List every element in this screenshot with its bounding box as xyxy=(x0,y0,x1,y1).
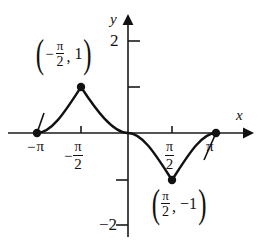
comma: , xyxy=(171,193,178,215)
point-maximum xyxy=(77,83,85,91)
fraction-numerator: π xyxy=(56,39,65,54)
math-figure: y x 2 −2 −π − π 2 π 2 π ( − π 2 , 1 xyxy=(0,0,260,241)
x-tick-label-minus-pi-over-2: − π 2 xyxy=(64,140,83,173)
second-coordinate: −1 xyxy=(179,196,197,212)
y-tick-label-minus-2: −2 xyxy=(99,216,117,233)
x-axis-arrowhead xyxy=(243,128,254,139)
open-paren: ( xyxy=(152,188,160,221)
min-point-label: ( π 2 , −1 ) xyxy=(148,188,210,221)
coordinate-pair: π 2 , −1 xyxy=(161,189,197,220)
max-point-label: ( − π 2 , 1 ) xyxy=(32,38,96,71)
fraction: π 2 xyxy=(165,140,174,173)
minus-sign: − xyxy=(64,149,73,164)
leader-line-minus-pi xyxy=(37,113,44,133)
fraction-denominator: 2 xyxy=(161,204,170,219)
y-tick-label-2: 2 xyxy=(110,32,119,49)
x-tick-label-minus-pi: −π xyxy=(27,138,44,155)
x-tick-label-pi-over-2: π 2 xyxy=(165,140,174,173)
point-minimum xyxy=(168,176,176,184)
fraction-numerator: π xyxy=(73,140,82,156)
x-axis-label: x xyxy=(236,108,243,123)
open-paren: ( xyxy=(36,38,44,71)
fraction-numerator: π xyxy=(165,140,174,156)
fraction-denominator: 2 xyxy=(73,156,82,172)
close-paren: ) xyxy=(84,38,92,71)
comma: , xyxy=(65,43,72,65)
fraction: π 2 xyxy=(56,39,65,70)
minus-sign: − xyxy=(45,47,54,62)
fraction-numerator: π xyxy=(161,189,170,204)
fraction-denominator: 2 xyxy=(165,156,174,172)
fraction: π 2 xyxy=(73,140,82,173)
y-axis-label: y xyxy=(110,12,117,27)
y-axis-arrowhead xyxy=(123,14,134,25)
second-coordinate: 1 xyxy=(73,46,82,62)
x-tick-label-pi: π xyxy=(206,139,214,154)
pi-symbol: π xyxy=(36,138,44,154)
close-paren: ) xyxy=(198,188,206,221)
fraction-denominator: 2 xyxy=(56,54,65,69)
coordinate-pair: − π 2 , 1 xyxy=(45,39,82,70)
fraction: π 2 xyxy=(161,189,170,220)
